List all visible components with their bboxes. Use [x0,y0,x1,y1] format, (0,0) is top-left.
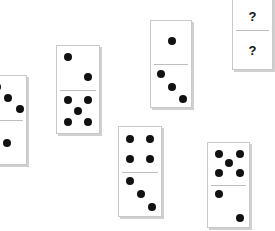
pip [236,169,244,177]
pip [64,118,72,126]
pip [146,155,154,163]
pip [4,94,12,102]
pip [126,177,134,185]
pip [146,135,154,143]
pip [148,203,156,211]
domino-a [0,75,27,165]
domino-c [150,20,192,108]
pip [236,214,244,222]
pip [84,73,92,81]
pip [126,155,134,163]
pip [157,70,165,78]
pip [126,135,134,143]
domino-f-top [208,143,249,185]
domino-c-bottom [151,64,191,107]
pip [0,83,1,91]
pip [84,96,92,104]
domino-d-unknown: ? ? [232,0,273,70]
pip [64,96,72,104]
domino-f [207,142,250,228]
domino-c-top [151,21,191,64]
domino-b-bottom [57,90,99,134]
pip [215,190,223,198]
domino-f-bottom [208,185,249,227]
pip [64,53,72,61]
domino-e-bottom [119,172,161,217]
question-mark-bottom: ? [233,42,272,57]
pip [84,118,92,126]
pip [225,159,233,167]
pip [137,190,145,198]
pip [74,107,82,115]
question-mark-top: ? [233,9,272,24]
pip [168,83,176,91]
pip [215,169,223,177]
domino-b [56,45,100,134]
domino-a-bottom [0,120,26,164]
domino-d-top: ? [233,0,272,30]
pip [215,150,223,158]
pip [3,139,11,147]
domino-b-top [57,46,99,90]
domino-e [118,126,162,217]
domino-a-top [0,76,26,120]
pip [179,95,187,103]
pip [168,37,176,45]
pip [236,150,244,158]
domino-d-bottom: ? [233,30,272,69]
domino-e-top [119,127,161,172]
pip [16,105,24,113]
